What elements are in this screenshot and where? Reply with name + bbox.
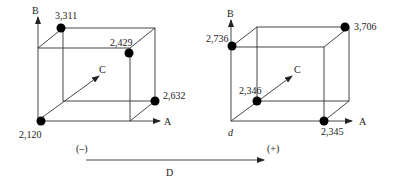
left-b-axis-label: B <box>32 5 39 16</box>
right-cube-edge <box>324 101 349 121</box>
left-cube: B A C 3,311 2,429 2,632 2,120 <box>19 5 186 140</box>
left-c-axis-arrow <box>40 76 99 119</box>
left-point-2632 <box>151 97 160 106</box>
right-b-axis-label: B <box>227 8 234 19</box>
right-point-label: 2,346 <box>239 85 262 96</box>
left-point-label: 2,632 <box>163 90 186 101</box>
d-plus-label: (+) <box>267 143 279 155</box>
right-cube: B A C d 2,736 3,706 2,346 2,345 <box>206 8 377 138</box>
left-point-label: 2,120 <box>19 129 42 140</box>
right-point-label: 2,736 <box>206 33 229 44</box>
left-point-2429 <box>125 49 134 58</box>
cube-design-diagram: B A C 3,311 2,429 2,632 2,120 B A C d <box>0 0 395 185</box>
left-a-axis-label: A <box>164 116 172 127</box>
d-factor-scale: (–) (+) D <box>76 143 279 178</box>
left-point-3311 <box>57 24 66 33</box>
d-minus-label: (–) <box>76 143 88 155</box>
right-origin-label: d <box>228 127 234 138</box>
right-point-2346 <box>253 97 262 106</box>
left-point-2120 <box>37 117 46 126</box>
right-c-axis-label: C <box>294 64 301 75</box>
left-cube-edge <box>130 101 155 121</box>
left-point-label: 3,311 <box>55 10 77 21</box>
right-point-label: 2,345 <box>321 126 344 137</box>
right-a-axis-label: A <box>359 116 367 127</box>
left-cube-edge <box>130 28 155 48</box>
right-point-label: 3,706 <box>354 21 377 32</box>
right-point-3706 <box>341 23 350 32</box>
left-point-label: 2,429 <box>110 37 133 48</box>
left-c-axis-label: C <box>99 64 106 75</box>
right-point-2736 <box>228 42 237 51</box>
right-c-axis-arrow <box>231 76 292 121</box>
d-axis-label: D <box>166 167 173 178</box>
right-point-2345 <box>320 117 329 126</box>
right-cube-front-face <box>231 47 324 121</box>
